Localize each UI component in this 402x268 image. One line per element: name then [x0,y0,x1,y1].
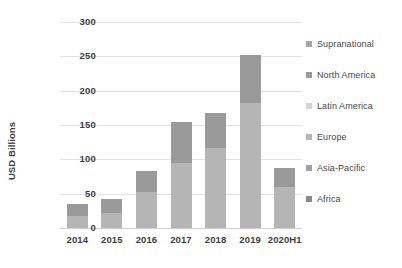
y-tick-label: 300 [54,16,96,27]
bar-segment-europe[interactable] [205,148,226,228]
y-tick-label: 150 [54,119,96,130]
y-tick-label: 200 [54,85,96,96]
legend-item-europe[interactable]: Europe [306,121,402,152]
y-tick-label: 100 [54,153,96,164]
grid-line [60,22,302,23]
legend-swatch-icon [306,103,312,109]
bar-segment-north-america[interactable] [205,113,226,148]
legend-label: Latin America [317,101,373,111]
legend-swatch-icon [306,134,312,140]
legend-item-africa[interactable]: Africa [306,183,402,214]
grid-line [60,228,302,229]
bar-chart: USD Billions 050100150200250300 20142015… [0,0,402,268]
y-tick-label: 50 [54,188,96,199]
bar-2017[interactable] [171,122,192,228]
legend-label: North America [317,70,375,80]
bar-segment-europe[interactable] [274,187,295,228]
legend-label: Europe [317,132,347,142]
bar-2016[interactable] [136,171,157,228]
legend-swatch-icon [306,165,312,171]
legend-item-latin-america[interactable]: Latin America [306,90,402,121]
legend-item-asia-pacific[interactable]: Asia-Pacific [306,152,402,183]
legend-label: Supranational [317,39,374,49]
bar-segment-north-america[interactable] [136,171,157,192]
plot-area [60,22,302,228]
bar-segment-europe[interactable] [101,213,122,228]
bar-segment-europe[interactable] [240,103,261,228]
chart-legend: SupranationalNorth AmericaLatin AmericaE… [306,28,402,214]
y-axis-title: USD Billions [6,96,17,206]
legend-label: Africa [317,194,341,204]
bar-segment-north-america[interactable] [171,122,192,163]
x-tick-label: 2020H1 [260,234,310,245]
bar-2018[interactable] [205,113,226,228]
grid-line [60,56,302,57]
bar-2019[interactable] [240,55,261,228]
legend-item-supranational[interactable]: Supranational [306,28,402,59]
bar-segment-europe[interactable] [136,192,157,228]
legend-label: Asia-Pacific [317,163,365,173]
grid-line [60,91,302,92]
legend-swatch-icon [306,196,312,202]
bar-2020H1[interactable] [274,168,295,228]
bar-segment-north-america[interactable] [274,168,295,187]
bar-segment-north-america[interactable] [101,199,122,213]
bar-2015[interactable] [101,199,122,228]
legend-swatch-icon [306,41,312,47]
bar-segment-north-america[interactable] [67,204,88,216]
bar-segment-europe[interactable] [171,163,192,228]
bar-segment-north-america[interactable] [240,55,261,103]
y-tick-label: 250 [54,50,96,61]
legend-swatch-icon [306,72,312,78]
y-tick-label: 0 [54,222,96,233]
legend-item-north-america[interactable]: North America [306,59,402,90]
